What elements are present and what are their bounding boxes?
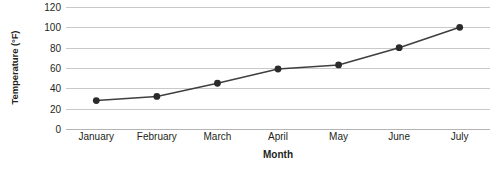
y-tick-label: 20 [50,103,61,114]
data-point-marker: January: 28 [93,97,100,104]
y-tick-label: 120 [44,2,61,13]
data-point-marker: June: 80 [396,44,403,51]
y-tick-label: 80 [50,42,61,53]
y-tick-label: 100 [44,22,61,33]
x-tick-label: April [268,131,288,142]
temperature-line-chart: Temperature (°F) 020406080100120 January… [0,0,502,179]
x-tick-label: June [388,131,410,142]
y-tick-label: 60 [50,63,61,74]
data-point-marker: May: 63 [335,62,342,69]
x-tick-label: March [204,131,232,142]
x-axis-tick-labels: JanuaryFebruaryMarchAprilMayJuneJuly [66,131,490,149]
axis-baseline [66,129,490,130]
data-point-marker: April: 59 [275,66,282,73]
y-tick-label: 40 [50,83,61,94]
x-tick-label: May [329,131,348,142]
x-tick-label: January [78,131,114,142]
data-point-marker: February: 32 [153,93,160,100]
y-axis-title: Temperature (°F) [0,0,30,134]
plot-area: January: 28February: 32March: 45April: 5… [66,7,490,129]
series-polyline [96,27,459,100]
series-line: January: 28February: 32March: 45April: 5… [66,7,490,129]
data-point-marker: March: 45 [214,80,221,87]
y-axis-title-label: Temperature (°F) [10,30,21,104]
x-axis-title: Month [66,149,490,160]
y-axis-tick-labels: 020406080100120 [28,7,64,129]
y-tick-label: 0 [55,124,61,135]
data-point-marker: July: 100 [456,24,463,31]
x-tick-label: July [451,131,469,142]
x-tick-label: February [137,131,177,142]
